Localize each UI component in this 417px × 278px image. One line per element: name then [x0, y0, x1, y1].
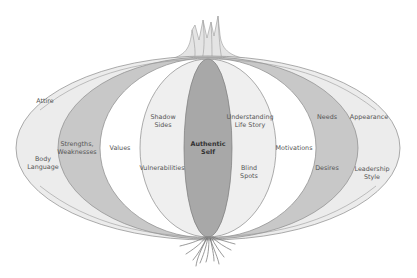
- label-motivations: Motivations: [276, 144, 313, 152]
- label-body-language: BodyLanguage: [27, 155, 59, 171]
- onion-diagram: Attire BodyLanguage Strengths,Weaknesses…: [0, 0, 417, 278]
- label-appearance: Appearance: [350, 113, 388, 121]
- label-needs: Needs: [317, 113, 337, 121]
- label-leadership-style: LeadershipStyle: [354, 165, 389, 181]
- label-strengths-weaknesses: Strengths,Weaknesses: [57, 140, 96, 156]
- label-values: Values: [110, 144, 131, 152]
- label-shadow-sides: ShadowSides: [150, 113, 175, 129]
- label-vulnerabilities: Vulnerabilities: [139, 164, 184, 172]
- onion-roots: [180, 237, 235, 266]
- onion-graphic: [0, 0, 417, 278]
- label-understanding-life-story: UnderstandingLife Story: [226, 113, 273, 129]
- label-desires: Desires: [315, 164, 339, 172]
- label-attire: Attire: [36, 97, 53, 105]
- onion-sprout: [168, 16, 250, 60]
- label-blind-spots: BlindSpots: [240, 164, 258, 180]
- label-authentic-self: AuthenticSelf: [190, 140, 225, 156]
